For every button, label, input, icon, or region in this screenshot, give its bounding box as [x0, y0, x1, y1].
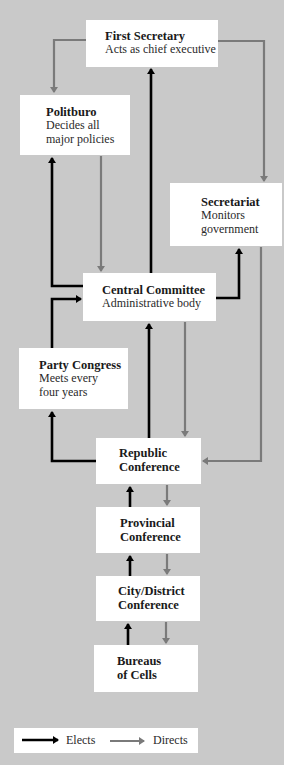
directs-first-secretary-to-politburo	[54, 40, 86, 92]
node-description: government	[201, 223, 260, 237]
node-republic-conference: Republic Conference	[96, 438, 201, 484]
node-title-line2: Conference	[118, 598, 185, 612]
node-description: Monitors	[201, 209, 260, 223]
node-title-line1: Bureaus	[117, 654, 161, 668]
node-city-district-conference: City/District Conference	[96, 576, 200, 621]
node-bureaus-of-cells: Bureaus of Cells	[94, 645, 198, 692]
node-title-line1: City/District	[118, 584, 185, 598]
node-title: First Secretary	[105, 29, 216, 43]
node-central-committee: Central Committee Administrative body	[83, 273, 216, 321]
node-description: Decides all	[46, 119, 114, 133]
legend-directs-label: Directs	[153, 733, 188, 748]
node-title: Party Congress	[39, 358, 121, 372]
directs-first-secretary-to-secretariat	[218, 41, 264, 181]
elects-republic-to-party-congress	[52, 412, 96, 461]
elects-central-committee-to-secretariat	[216, 249, 239, 298]
node-politburo: Politburo Decides all major policies	[20, 95, 130, 155]
node-description: Acts as chief executive	[105, 43, 216, 57]
legend: Elects Directs	[14, 728, 198, 753]
node-description: Meets every	[39, 372, 121, 386]
node-secretariat: Secretariat Monitors government	[170, 183, 282, 246]
node-title-line2: of Cells	[117, 668, 161, 682]
node-provincial-conference: Provincial Conference	[96, 507, 200, 553]
node-title-line1: Provincial	[120, 516, 181, 530]
node-description: four years	[39, 386, 121, 400]
node-title-line2: Conference	[119, 460, 180, 474]
legend-elects-label: Elects	[66, 733, 95, 748]
node-title-line2: Conference	[120, 530, 181, 544]
node-title: Politburo	[46, 105, 114, 119]
node-title: Secretariat	[201, 195, 260, 209]
elects-central-committee-to-politburo	[52, 158, 83, 286]
node-first-secretary: First Secretary Acts as chief executive	[86, 20, 218, 67]
node-description: Administrative body	[102, 297, 205, 311]
elects-party-congress-to-central-committee	[52, 299, 81, 348]
node-title: Central Committee	[102, 283, 205, 297]
node-party-congress: Party Congress Meets every four years	[19, 348, 128, 409]
node-description: major policies	[46, 133, 114, 147]
node-title-line1: Republic	[119, 446, 180, 460]
